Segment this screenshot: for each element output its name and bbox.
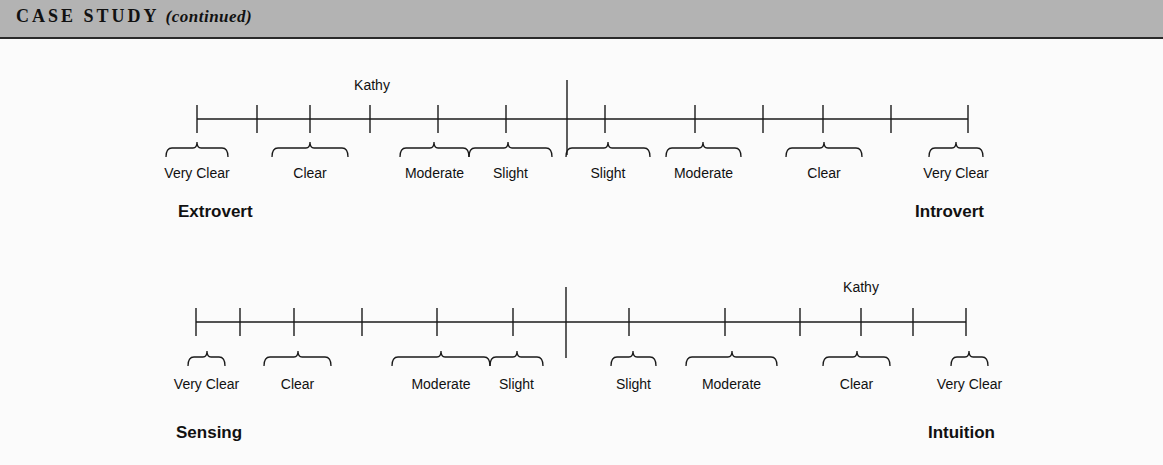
- brace-icon: [469, 142, 552, 157]
- marker-label: Kathy: [843, 279, 879, 295]
- scale-extrovert-introvert: KathyVery ClearClearModerateSlightSlight…: [164, 77, 989, 221]
- brace-icon: [823, 351, 890, 366]
- degree-label: Very Clear: [164, 165, 230, 181]
- brace-icon: [566, 142, 650, 157]
- personality-scales-diagram: KathyVery ClearClearModerateSlightSlight…: [0, 0, 1163, 465]
- brace-icon: [490, 351, 543, 366]
- marker-label: Kathy: [354, 77, 390, 93]
- brace-icon: [611, 351, 656, 366]
- left-pole-label: Extrovert: [178, 202, 253, 221]
- brace-icon: [666, 142, 741, 157]
- degree-label: Moderate: [411, 376, 470, 392]
- degree-label: Clear: [281, 376, 315, 392]
- left-pole-label: Sensing: [176, 423, 242, 442]
- brace-icon: [929, 142, 983, 157]
- degree-label: Slight: [493, 165, 528, 181]
- brace-icon: [392, 351, 490, 366]
- degree-label: Clear: [293, 165, 327, 181]
- brace-icon: [264, 351, 331, 366]
- degree-label: Slight: [590, 165, 625, 181]
- right-pole-label: Introvert: [915, 202, 984, 221]
- degree-label: Very Clear: [937, 376, 1003, 392]
- degree-label: Very Clear: [174, 376, 240, 392]
- brace-icon: [188, 351, 225, 366]
- scale-sensing-intuition: KathyVery ClearClearModerateSlightSlight…: [174, 279, 1003, 442]
- degree-label: Clear: [807, 165, 841, 181]
- degree-label: Slight: [616, 376, 651, 392]
- degree-label: Clear: [840, 376, 874, 392]
- brace-icon: [400, 142, 469, 157]
- brace-icon: [686, 351, 777, 366]
- brace-icon: [951, 351, 988, 366]
- degree-label: Moderate: [405, 165, 464, 181]
- brace-icon: [166, 142, 228, 157]
- brace-icon: [786, 142, 862, 157]
- right-pole-label: Intuition: [928, 423, 995, 442]
- degree-label: Moderate: [702, 376, 761, 392]
- degree-label: Very Clear: [923, 165, 989, 181]
- degree-label: Moderate: [674, 165, 733, 181]
- brace-icon: [272, 142, 348, 157]
- degree-label: Slight: [499, 376, 534, 392]
